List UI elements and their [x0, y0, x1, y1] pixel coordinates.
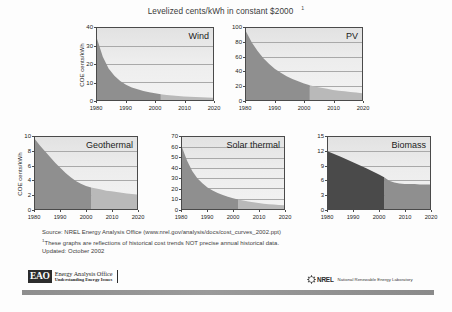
x-tick-mark	[327, 210, 328, 212]
x-tick-label: 2000	[373, 214, 386, 220]
x-tick-mark	[405, 210, 406, 212]
y-tick-mark	[325, 166, 327, 167]
nrel-logo: NREL National Renewable Energy Laborator…	[307, 275, 413, 284]
projection-area	[384, 177, 430, 209]
y-tick-mark	[325, 180, 327, 181]
series-label-biomass: Biomass	[391, 140, 426, 150]
x-tick-mark	[431, 210, 432, 212]
eao-wordmark: Energy Analysis Office Understanding Ene…	[55, 270, 118, 283]
x-tick-label: 2010	[399, 214, 412, 220]
y-tick-mark	[325, 151, 327, 152]
nrel-mark-icon	[307, 275, 316, 284]
y-tick-label: 15	[317, 133, 324, 139]
source-notes: Source: NREL Energy Analysis Office (www…	[42, 228, 281, 256]
slide-canvas: Levelized cents/kWh in constant $20001 C…	[0, 0, 452, 312]
x-tick-mark	[353, 210, 354, 212]
updated-line: Updated: October 2002	[42, 247, 281, 256]
footnote-line: 1These graphs are reflections of histori…	[42, 237, 281, 248]
y-tick-mark	[325, 136, 327, 137]
y-tick-label: 9	[321, 163, 324, 169]
nrel-name: NREL	[317, 275, 334, 284]
y-tick-label: 12	[317, 148, 324, 154]
eao-logo: EAO Energy Analysis Office Understanding…	[28, 267, 118, 285]
x-tick-label: 1990	[347, 214, 360, 220]
plot-area-biomass: Biomass	[327, 136, 431, 210]
source-line: Source: NREL Energy Analysis Office (www…	[42, 228, 281, 237]
footer-bar	[22, 290, 434, 295]
x-tick-mark	[379, 210, 380, 212]
eao-tagline: Understanding Energy Issues	[55, 277, 113, 283]
eao-badge: EAO	[28, 270, 52, 283]
x-tick-label: 1980	[321, 214, 334, 220]
y-tick-label: 6	[321, 177, 324, 183]
y-tick-label: 3	[321, 192, 324, 198]
y-tick-mark	[325, 195, 327, 196]
eao-name: Energy Analysis Office	[55, 270, 113, 277]
chart-panel-biomass: Biomass0369121519801990200020102020	[0, 0, 452, 312]
footnote-text: These graphs are reflections of historic…	[45, 240, 280, 246]
history-area	[328, 151, 384, 209]
nrel-tagline: National Renewable Energy Laboratory	[338, 275, 413, 284]
y-tick-label: 0	[321, 207, 324, 213]
x-tick-label: 2020	[425, 214, 438, 220]
